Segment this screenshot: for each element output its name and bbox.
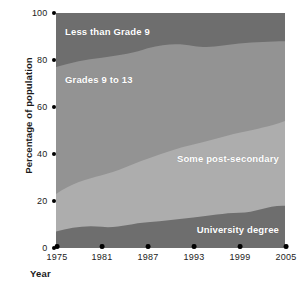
x-tick-label-2005: 2005 [276, 252, 297, 262]
education-attainment-area-chart: Percentage of population 100 80 60 40 20… [0, 0, 304, 286]
x-tick-dot-icon [284, 244, 289, 249]
x-tick-label-1999: 1999 [230, 252, 251, 262]
x-tick-1999: 1999 [230, 244, 251, 262]
x-tick-label-1975: 1975 [47, 252, 68, 262]
x-tick-1987: 1987 [138, 244, 159, 262]
x-tick-2005: 2005 [276, 244, 297, 262]
x-tick-dot-icon [238, 244, 243, 249]
x-tick-dot-icon [100, 244, 105, 249]
x-tick-label-1987: 1987 [138, 252, 159, 262]
x-tick-dot-icon [55, 244, 60, 249]
x-tick-1993: 1993 [184, 244, 205, 262]
x-tick-label-1993: 1993 [184, 252, 205, 262]
x-axis-title: Year [30, 268, 51, 279]
x-tick-dot-icon [192, 244, 197, 249]
x-tick-1975: 1975 [47, 244, 68, 262]
x-tick-1981: 1981 [92, 244, 113, 262]
x-axis-ticks: 1975 1981 1987 1993 1999 2005 [0, 0, 304, 286]
x-tick-dot-icon [146, 244, 151, 249]
x-tick-label-1981: 1981 [92, 252, 113, 262]
